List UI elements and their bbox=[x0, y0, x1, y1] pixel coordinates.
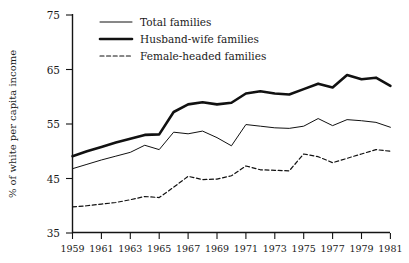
series-line-female-headed-families bbox=[73, 150, 391, 207]
y-tick-label-65: 65 bbox=[47, 64, 60, 76]
y-tick-marks bbox=[66, 15, 73, 233]
x-tick-label-1979: 1979 bbox=[349, 243, 373, 254]
y-tick-label-55: 55 bbox=[47, 118, 60, 130]
x-tick-marks bbox=[73, 233, 391, 239]
legend-label-husband-wife-families: Husband-wife families bbox=[140, 33, 259, 45]
x-tick-label-1959: 1959 bbox=[60, 243, 84, 254]
x-tick-label-1975: 1975 bbox=[292, 243, 316, 254]
y-tick-label-45: 45 bbox=[47, 173, 60, 185]
x-tick-label-1961: 1961 bbox=[89, 243, 113, 254]
x-tick-label-1969: 1969 bbox=[205, 243, 229, 254]
x-tick-label-1967: 1967 bbox=[176, 243, 200, 254]
y-tick-label-75: 75 bbox=[47, 9, 60, 21]
x-tick-label-1981: 1981 bbox=[378, 243, 402, 254]
x-tick-label-1971: 1971 bbox=[234, 243, 258, 254]
series-line-husband-wife-families bbox=[73, 75, 391, 156]
x-tick-label-1963: 1963 bbox=[118, 243, 142, 254]
chart-legend: Total families Husband-wife families Fem… bbox=[100, 16, 266, 62]
legend-label-total-families: Total families bbox=[140, 16, 211, 28]
chart-figure: 75 65 55 45 35 % of white per capita inc… bbox=[0, 0, 409, 263]
x-tick-label-1977: 1977 bbox=[321, 243, 345, 254]
x-tick-label-1973: 1973 bbox=[263, 243, 287, 254]
y-axis-title: % of white per capita income bbox=[7, 50, 18, 198]
y-tick-label-35: 35 bbox=[47, 227, 60, 239]
series-line-total-families bbox=[73, 119, 391, 169]
x-tick-label-1965: 1965 bbox=[147, 243, 171, 254]
line-chart: 75 65 55 45 35 % of white per capita inc… bbox=[0, 0, 409, 263]
legend-label-female-headed-families: Female-headed families bbox=[140, 50, 266, 62]
